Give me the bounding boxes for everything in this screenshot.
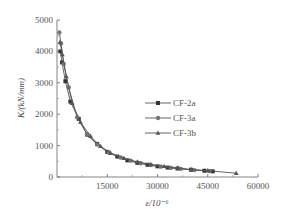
x-axis: 15000300004500060000 <box>57 174 270 191</box>
y-tick-label: 3000 <box>35 78 54 88</box>
legend-item-cf-2a: CF-2a <box>145 98 196 108</box>
legend-label: CF-3b <box>173 128 197 138</box>
legend-item-cf-3a: CF-3a <box>145 113 196 123</box>
legend-item-cf-3b: CF-3b <box>145 128 197 138</box>
legend-label: CF-3a <box>173 113 196 123</box>
y-tick-label: 2000 <box>35 109 54 119</box>
x-tick-label: 45000 <box>197 181 220 191</box>
x-tick-label: 30000 <box>146 181 169 191</box>
y-axis-label: K/(kN/mm) <box>16 78 26 119</box>
y-axis: 010002000300040005000 <box>35 15 60 182</box>
series-cf-2a <box>58 49 214 173</box>
legend-label: CF-2a <box>173 98 196 108</box>
stiffness-strain-chart: 010002000300040005000 150003000045000600… <box>0 0 281 214</box>
x-tick-label: 15000 <box>96 181 119 191</box>
y-tick-label: 5000 <box>35 15 54 25</box>
x-axis-label: ε/10⁻⁶ <box>145 198 168 208</box>
x-tick-label: 60000 <box>247 181 270 191</box>
series-cf-3b <box>58 39 239 175</box>
legend: CF-2aCF-3aCF-3b <box>145 98 197 138</box>
y-tick-label: 4000 <box>35 46 54 56</box>
y-tick-label: 0 <box>49 172 54 182</box>
y-tick-label: 1000 <box>35 141 54 151</box>
